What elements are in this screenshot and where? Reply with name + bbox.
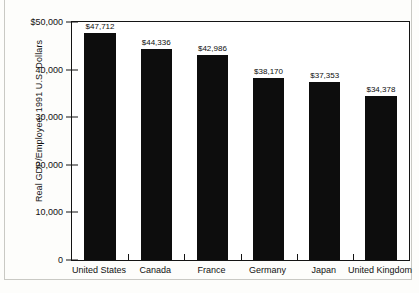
y-tick-label: 10,000 <box>35 207 72 217</box>
y-tick-mark-inner <box>72 260 78 261</box>
x-tick-label: United Kingdom <box>348 265 412 275</box>
x-tick-mark <box>297 254 298 261</box>
y-tick-label: 0 <box>58 255 72 265</box>
y-tick-label: $50,000 <box>30 17 72 27</box>
y-tick-label: 20,000 <box>35 160 72 170</box>
y-tick-mark-inner <box>72 212 78 213</box>
x-tick-mark <box>184 254 185 261</box>
bar: $42,986 <box>197 55 228 260</box>
bar-value-label: $47,712 <box>86 22 115 31</box>
y-tick-mark-inner <box>72 22 78 23</box>
bar: $47,712 <box>84 33 115 260</box>
bar-value-label: $38,170 <box>254 67 283 76</box>
bar: $37,353 <box>309 82 340 260</box>
x-tick-label: Japan <box>311 265 336 275</box>
y-tick-mark-inner <box>72 164 78 165</box>
bar-value-label: $42,986 <box>198 44 227 53</box>
bar-value-label: $37,353 <box>310 71 339 80</box>
y-tick-mark-inner <box>72 69 78 70</box>
y-tick-label: 30,000 <box>35 112 72 122</box>
bar: $38,170 <box>253 78 284 260</box>
x-tick-mark <box>353 254 354 261</box>
x-tick-label: Canada <box>139 265 171 275</box>
x-tick-mark <box>241 254 242 261</box>
plot-area: 010,00020,00030,00040,000$50,000 $47,712… <box>71 21 410 261</box>
x-tick-label: Germany <box>249 265 286 275</box>
bar-value-label: $34,378 <box>366 85 395 94</box>
bar: $34,378 <box>365 96 396 260</box>
x-tick-label: France <box>197 265 225 275</box>
x-tick-label: United States <box>72 265 126 275</box>
x-tick-mark <box>128 254 129 261</box>
y-tick-mark-inner <box>72 117 78 118</box>
bar-value-label: $44,336 <box>142 38 171 47</box>
bar: $44,336 <box>141 49 172 260</box>
y-tick-label: 40,000 <box>35 65 72 75</box>
chart-figure: Real GDP/Employee, 1991 U.S. Dollars 010… <box>0 0 419 293</box>
